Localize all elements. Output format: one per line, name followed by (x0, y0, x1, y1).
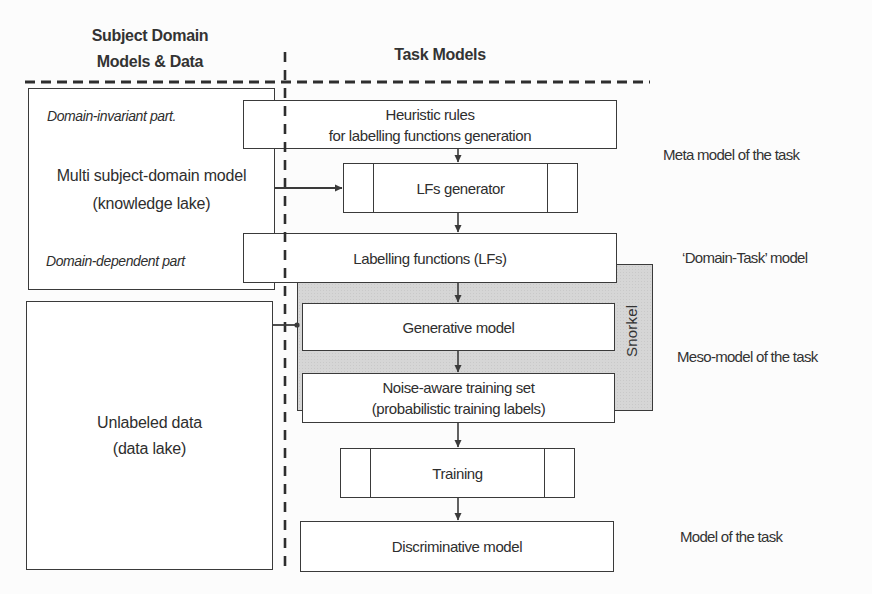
domain-invariant-note: Domain-invariant part. (47, 106, 176, 126)
knowledge-lake-box: Domain-invariant part. Multi subject-dom… (28, 88, 275, 290)
training-label: Training (432, 463, 482, 484)
noise-aware-line1: Noise-aware training set (382, 377, 534, 398)
knowledge-lake-subtitle: (knowledge lake) (29, 193, 274, 215)
discriminative-model-label: Discriminative model (392, 536, 522, 557)
level-label-meta: Meta model of the task (663, 145, 799, 165)
subject-domain-header-line2: Models & Data (70, 49, 230, 75)
subject-domain-header-line1: Subject Domain (70, 23, 230, 49)
knowledge-lake-title: Multi subject-domain model (29, 165, 274, 187)
data-lake-title: Unlabeled data (27, 412, 272, 434)
discriminative-model-box: Discriminative model (300, 521, 614, 572)
heuristic-rules-box: Heuristic rules for labelling functions … (243, 100, 617, 149)
noise-aware-line2: (probabilistic training labels) (372, 398, 546, 419)
noise-aware-training-set-box: Noise-aware training set (probabilistic … (302, 373, 615, 423)
labelling-functions-label: Labelling functions (LFs) (353, 248, 506, 269)
level-label-domain-task: ‘Domain-Task’ model (682, 248, 807, 268)
data-lake-subtitle: (data lake) (27, 438, 272, 460)
level-label-meso: Meso-model of the task (677, 347, 818, 367)
subject-domain-header: Subject Domain Models & Data (70, 23, 230, 75)
heuristic-rules-line1: Heuristic rules (385, 104, 474, 125)
generative-model-label: Generative model (403, 317, 515, 338)
domain-dependent-note: Domain-dependent part (46, 251, 185, 271)
heuristic-rules-line2: for labelling functions generation (329, 125, 531, 146)
snorkel-label: Snorkel (621, 317, 643, 357)
training-box: Training (340, 448, 575, 498)
lf-generator-label: LFs generator (416, 178, 504, 199)
data-lake-box: Unlabeled data (data lake) (26, 301, 273, 570)
task-models-header: Task Models (380, 42, 500, 68)
level-label-model: Model of the task (680, 527, 782, 547)
labelling-functions-box: Labelling functions (LFs) (243, 233, 617, 283)
lf-generator-box: LFs generator (343, 163, 578, 213)
generative-model-box: Generative model (302, 303, 615, 351)
